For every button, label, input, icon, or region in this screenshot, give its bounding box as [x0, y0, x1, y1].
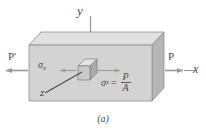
- z-axis-label: z: [40, 87, 44, 98]
- y-axis-label: y: [77, 4, 83, 17]
- x-axis-label: x: [193, 63, 198, 75]
- axial-stress-figure: y x z P P' σx σx = P A (a): [0, 0, 206, 134]
- sigma-subscript-left: x: [43, 64, 46, 71]
- sigma-subscript-eq: x: [106, 79, 109, 86]
- figure-caption: (a): [0, 114, 206, 124]
- stress-fraction: P A: [121, 72, 131, 93]
- fraction-numerator: P: [121, 72, 131, 82]
- force-P-prime-label: P': [8, 51, 16, 62]
- equals-sign: =: [111, 78, 117, 88]
- sigma-x-equation: σx = P A: [101, 72, 131, 93]
- force-P-label: P: [168, 51, 174, 62]
- block-top-face: [29, 32, 164, 45]
- sigma-x-left-label: σx: [38, 60, 46, 72]
- fraction-denominator: A: [121, 82, 131, 93]
